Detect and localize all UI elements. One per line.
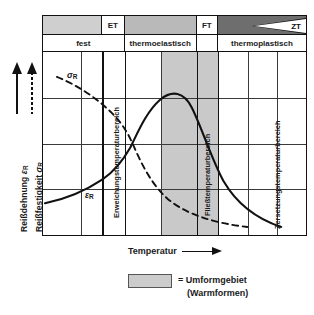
solid-up-arrow-icon xyxy=(12,62,22,114)
curve-sigma-r xyxy=(57,77,248,227)
band-thermoelastisch xyxy=(125,16,197,34)
curve-epsilon-r xyxy=(45,94,281,227)
curve-label-epsilon-r: εR xyxy=(85,190,94,200)
state-thermoelastisch-label: thermoelastisch xyxy=(129,39,190,48)
band-et: ET xyxy=(102,16,124,34)
band-et-label: ET xyxy=(102,21,123,30)
curve-label-sigma-r: σR xyxy=(67,70,77,80)
zt-wedge: ZT xyxy=(250,16,306,35)
state-thermoplastisch-label: thermoplastisch xyxy=(231,39,293,48)
region-label-fliess: Fließtemperaturbereich xyxy=(203,134,212,216)
y-axis-group: Reißdehnung εR Reißfestigkeit σR xyxy=(0,60,42,240)
band-zt-label: ZT xyxy=(291,21,301,30)
right-arrow-icon xyxy=(182,247,222,256)
state-fest-label: fest xyxy=(76,39,90,48)
region-label-zersetzung: Zersetzungstemperaturbereich xyxy=(273,121,282,229)
state-fest: fest xyxy=(43,35,125,51)
x-axis-label: Temperatur xyxy=(128,246,177,256)
band-fest xyxy=(43,16,102,34)
epsilon-subscript: R xyxy=(89,193,94,200)
sigma-subscript: R xyxy=(73,73,78,80)
chart-frame: ET FT ZT fest thermoelastisch thermoplas… xyxy=(42,15,307,236)
band-ft-label: FT xyxy=(197,21,217,30)
diagram-root: Reißdehnung εR Reißfestigkeit σR ET FT Z… xyxy=(0,0,314,315)
y-axis-label-strain: Reißdehnung εR xyxy=(19,165,29,232)
plot-area: Erweichungstemperaturbereich Fließtemper… xyxy=(43,52,306,235)
y-axis-strain-symbol: ε xyxy=(19,170,29,174)
x-axis-group: Temperatur xyxy=(128,246,222,256)
legend-equals: = xyxy=(178,275,183,285)
state-thermoelastisch: thermoelastisch xyxy=(125,35,197,51)
legend: = Umformgebiet (Warmformen) xyxy=(128,274,248,299)
band-ft: FT xyxy=(197,16,218,34)
transition-band-row: ET FT ZT xyxy=(43,16,306,35)
legend-text: = Umformgebiet (Warmformen) xyxy=(178,274,248,299)
curve-layer xyxy=(43,52,306,235)
y-axis-strain-text: Reißdehnung xyxy=(19,177,29,232)
legend-swatch-umformgebiet xyxy=(128,274,172,288)
region-label-erweichung: Erweichungstemperaturbereich xyxy=(112,107,121,218)
legend-line-2: (Warmformen) xyxy=(187,287,248,300)
legend-line-1: Umformgebiet xyxy=(186,275,247,285)
y-axis-strain-subscript: R xyxy=(22,165,29,170)
state-name-row: fest thermoelastisch thermoplastisch xyxy=(43,35,306,52)
dashed-up-arrow-icon xyxy=(27,62,37,114)
state-blank xyxy=(197,35,218,51)
state-thermoplastisch: thermoplastisch xyxy=(218,35,306,51)
